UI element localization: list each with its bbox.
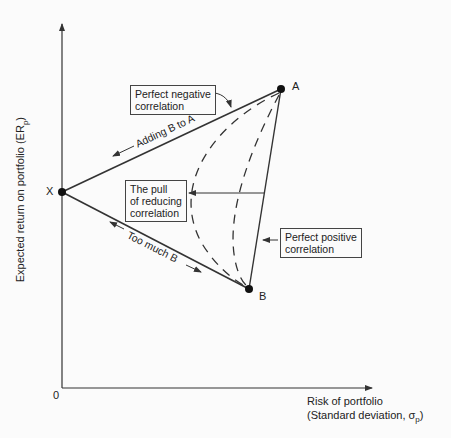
point-b-label: B [259,290,266,302]
point-x [58,188,66,196]
point-b [245,285,253,293]
adding-arrow [113,146,134,156]
too-much-arrow-right [186,265,201,272]
point-x-label: X [46,185,53,197]
perfect-positive-box: Perfect positive correlation [280,228,362,258]
point-a-label: A [292,80,299,92]
x-axis-label: Risk of portfolio (Standard deviation, σ… [307,394,423,427]
origin-label: 0 [53,389,59,401]
pull-box: The pull of reducing correlation [125,180,187,222]
y-axis-label: Expected return on portfolio (ERp) [14,100,29,300]
dashed-curve-outer [233,95,279,286]
perfect-negative-box: Perfect negative correlation [130,85,216,115]
line-a-b [249,89,281,289]
point-a [277,85,285,93]
portfolio-correlation-diagram [0,0,451,438]
dashed-curve-inner [191,93,279,287]
